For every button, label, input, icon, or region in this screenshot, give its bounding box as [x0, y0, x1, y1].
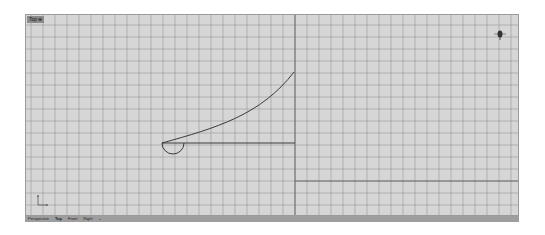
add-viewport-tab-button[interactable]: + — [99, 216, 101, 222]
top-viewport[interactable]: Top ⊕ — [25, 14, 519, 216]
compass-icon[interactable] — [494, 31, 506, 41]
tab-right[interactable]: Right — [83, 216, 92, 222]
xy-axis-icon — [37, 195, 48, 206]
viewport-canvas[interactable] — [26, 15, 519, 216]
arc-object[interactable] — [162, 143, 184, 154]
curve-object[interactable] — [162, 72, 294, 143]
grid-lines — [26, 15, 519, 216]
viewport-tab-bar: Perspective Top Front Right + — [25, 216, 519, 222]
viewport-title-label[interactable]: Top ⊕ — [27, 16, 44, 23]
tab-front[interactable]: Front — [68, 216, 77, 222]
tab-perspective[interactable]: Perspective — [28, 216, 49, 222]
tab-top[interactable]: Top — [55, 216, 62, 222]
